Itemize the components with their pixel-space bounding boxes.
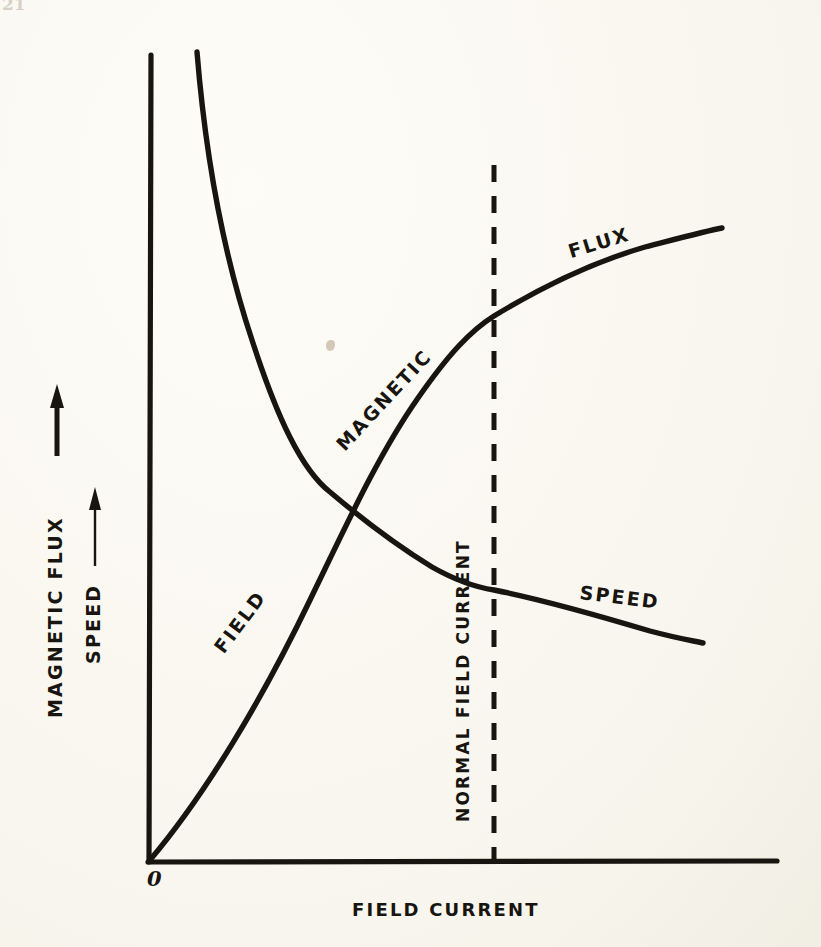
y-axis-label-magnetic-flux: MAGNETIC FLUX [46, 516, 65, 718]
x-axis-line [148, 861, 777, 862]
origin-label: 0 [147, 866, 162, 891]
speed-arrow-icon [89, 487, 101, 566]
magnetic-flux-arrow-icon [50, 384, 64, 456]
figure-canvas: 21 0 MAGNETIC FLUX SPEED NORMAL FIELD CU… [0, 0, 821, 947]
y-axis-line [149, 55, 151, 862]
y-axis-label-speed: SPEED [84, 584, 103, 664]
magnetic-flux-curve [150, 228, 722, 860]
x-axis-label-field-current: FIELD CURRENT [352, 901, 540, 919]
graph-drawing [0, 0, 821, 947]
annotation-normal-field-current: NORMAL FIELD CURRENT [455, 539, 472, 822]
speed-curve [197, 52, 703, 643]
